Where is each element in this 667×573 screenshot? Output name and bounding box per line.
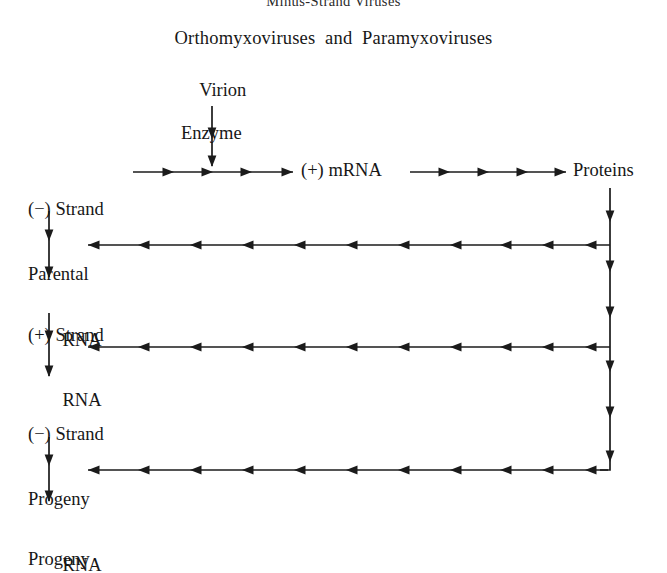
node-progeny-virus: Progeny Virus: [28, 505, 90, 573]
feedback-arrow-to-progeny-step: [88, 466, 608, 475]
plus-strand-line1: (+) Strand: [28, 325, 136, 347]
node-mrna: (+) mRNA: [301, 160, 382, 182]
virion-enzyme-line1: Virion: [199, 80, 246, 100]
arrow-mrna-to-proteins: [410, 168, 566, 177]
parental-line1: (−) Strand: [28, 199, 136, 221]
protein-feedback-bus: [600, 188, 614, 470]
node-virion-enzyme: Virion Enzyme: [181, 58, 246, 189]
feedback-arrow-to-parental-step: [88, 241, 610, 250]
running-title: Minus-Strand Viruses: [0, 0, 667, 10]
virion-enzyme-line2: Enzyme: [181, 123, 246, 145]
figure-canvas: Minus-Strand Viruses Orthomyxoviruses an…: [0, 0, 667, 573]
node-proteins: Proteins: [573, 160, 634, 182]
progeny-rna-line1: (−) Strand: [28, 424, 136, 446]
feedback-arrow-to-plus-strand-step: [88, 343, 610, 352]
diagram-header: Orthomyxoviruses and Paramyxoviruses: [0, 28, 667, 50]
progeny-virus-line1: Progeny: [28, 549, 90, 571]
